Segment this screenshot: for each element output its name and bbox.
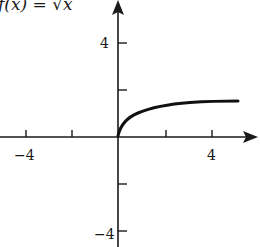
chart-title: f(x) = √x xyxy=(0,0,73,14)
x-tick-label-4: 4 xyxy=(207,147,216,163)
x-tick-label-neg4: −4 xyxy=(14,147,35,163)
function-graph: f(x) = √x −4 4 4 −4 xyxy=(0,0,260,247)
y-tick-label-neg4: −4 xyxy=(94,226,115,242)
sqrt-curve xyxy=(118,101,238,136)
y-tick-label-4: 4 xyxy=(100,35,109,51)
